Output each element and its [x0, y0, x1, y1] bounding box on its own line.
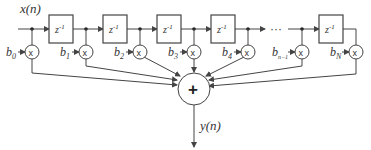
svg-text:x: x: [29, 48, 34, 58]
delay-block-5: z-1: [319, 15, 343, 43]
svg-text:x: x: [137, 48, 142, 58]
svg-text:x: x: [245, 48, 250, 58]
svg-text:x: x: [353, 48, 358, 58]
svg-text:b2: b2: [114, 45, 124, 61]
svg-text:+: +: [188, 80, 198, 99]
svg-text:bn−1: bn−1: [272, 45, 288, 60]
input-label: x(n): [19, 1, 41, 16]
svg-text:x: x: [83, 48, 88, 58]
multiplier-4: b4 x: [222, 45, 255, 61]
multiplier-2: b2 x: [114, 45, 147, 61]
multiplier-N: bN x: [330, 45, 363, 61]
delay-block-4: z-1: [211, 15, 235, 43]
multiplier-n-minus-1: bn−1 x: [272, 45, 309, 60]
svg-text:bN: bN: [330, 45, 342, 61]
svg-text:b0: b0: [6, 45, 16, 61]
multiplier-1: b1 x: [60, 45, 93, 61]
summer: +: [178, 73, 210, 105]
svg-text:b1: b1: [60, 45, 70, 61]
svg-text:b4: b4: [222, 45, 232, 61]
fir-filter-diagram: x(n) ··· z-1 z-1 z-1: [0, 0, 371, 150]
output-label: y(n): [198, 118, 221, 133]
delay-block-2: z-1: [103, 15, 127, 43]
delay-block-1: z-1: [49, 15, 73, 43]
multiplier-0: b0 x: [6, 45, 39, 61]
svg-text:x: x: [299, 48, 304, 58]
ellipsis: ···: [270, 22, 282, 36]
svg-text:b3: b3: [168, 45, 178, 61]
svg-text:x: x: [191, 48, 196, 58]
delay-block-3: z-1: [157, 15, 181, 43]
multiplier-3: b3 x: [168, 45, 201, 61]
